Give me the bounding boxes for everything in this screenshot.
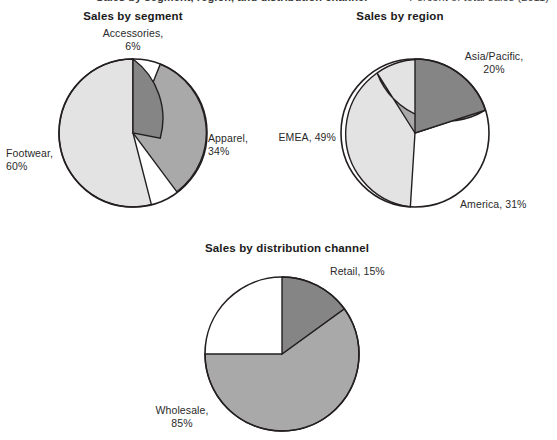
pie-distribution-svg bbox=[204, 276, 360, 432]
chart-sales-by-distribution-channel: Sales by distribution channel Retail, 15… bbox=[140, 240, 420, 440]
pie-region-svg bbox=[340, 58, 490, 208]
pie-region bbox=[340, 58, 490, 208]
chart-sales-by-segment: Sales by segment Accessories, 6% Apparel… bbox=[0, 0, 270, 230]
pie-segment bbox=[58, 58, 208, 208]
pie-segment-svg bbox=[58, 58, 208, 208]
chart-sales-by-region: Sales by region Asia/Pacific, 20% Americ… bbox=[282, 0, 557, 230]
label-america: America, 31% bbox=[460, 198, 556, 211]
pie-slice-emea bbox=[341, 58, 424, 207]
label-footwear: Footwear, 60% bbox=[6, 147, 80, 173]
chart-title-segment: Sales by segment bbox=[58, 10, 208, 22]
chart-title-distribution-channel: Sales by distribution channel bbox=[205, 242, 365, 254]
label-asia-pacific: Asia/Pacific, 20% bbox=[448, 50, 540, 76]
label-accessories: Accessories, 6% bbox=[83, 27, 183, 53]
pie-distribution-channel bbox=[204, 276, 360, 432]
label-wholesale: Wholesale, 85% bbox=[137, 404, 227, 430]
label-retail: Retail, 15% bbox=[330, 265, 416, 278]
figure-root: Sales by segment, region, and distributi… bbox=[0, 0, 557, 440]
label-emea: EMEA, 49% bbox=[254, 131, 336, 144]
chart-title-region: Sales by region bbox=[330, 10, 470, 22]
